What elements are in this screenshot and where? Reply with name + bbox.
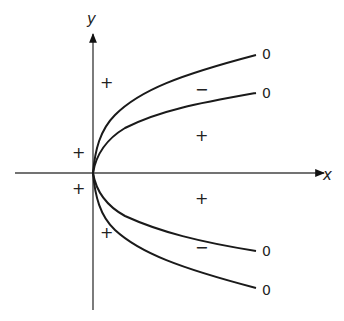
zero-label-upper-outer: 0 [262,46,271,62]
curve-lower-inner [93,173,256,251]
curve-upper-inner [93,93,256,173]
zero-label-lower-outer: 0 [262,282,271,298]
y-axis-label: y [86,10,97,28]
x-axis-label: x [322,166,332,184]
sign-diagram: y x 0 0 0 0 + + − + + + + − [0,0,344,321]
sign-minus-upper-between: − [195,80,208,99]
sign-minus-lower-between: − [195,238,208,257]
sign-plus-left-above-axis: + [72,143,85,162]
sign-plus-lower-left: + [100,223,113,242]
zero-label-lower-inner: 0 [262,243,271,259]
sign-plus-left-below-axis: + [72,179,85,198]
sign-plus-right-upper: + [195,126,208,145]
sign-plus-right-lower: + [195,189,208,208]
curve-upper-outer [93,55,256,173]
curve-lower-outer [93,173,256,288]
sign-plus-upper-left: + [100,73,113,92]
zero-label-upper-inner: 0 [262,85,271,101]
